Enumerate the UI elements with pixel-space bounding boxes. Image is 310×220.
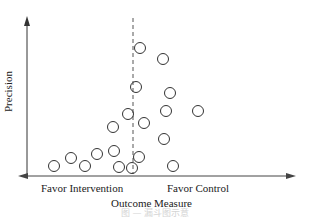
favor-intervention-label: Favor Intervention	[41, 182, 123, 194]
data-points	[49, 43, 204, 174]
x-axis-right-arrow-icon	[286, 173, 296, 179]
data-point	[131, 82, 142, 93]
data-point	[66, 153, 77, 164]
data-point	[159, 134, 170, 145]
data-point	[109, 146, 120, 157]
x-axis-left-arrow-icon	[18, 173, 28, 179]
favor-control-label: Favor Control	[167, 182, 229, 194]
data-point	[135, 43, 146, 54]
data-point	[165, 88, 176, 99]
y-axis-label: Precision	[2, 71, 14, 112]
data-point	[168, 161, 179, 172]
y-axis-arrow-icon	[24, 16, 30, 26]
data-point	[108, 122, 119, 133]
data-point	[134, 152, 145, 163]
data-point	[139, 118, 150, 129]
data-point	[193, 106, 204, 117]
data-point	[80, 161, 91, 172]
data-point	[158, 54, 169, 65]
data-point	[123, 109, 134, 120]
data-point	[92, 149, 103, 160]
data-point	[49, 161, 60, 172]
data-point	[127, 163, 138, 174]
figure-caption: 图 — 漏斗图示意	[0, 206, 310, 219]
data-point	[161, 106, 172, 117]
data-point	[114, 162, 125, 173]
